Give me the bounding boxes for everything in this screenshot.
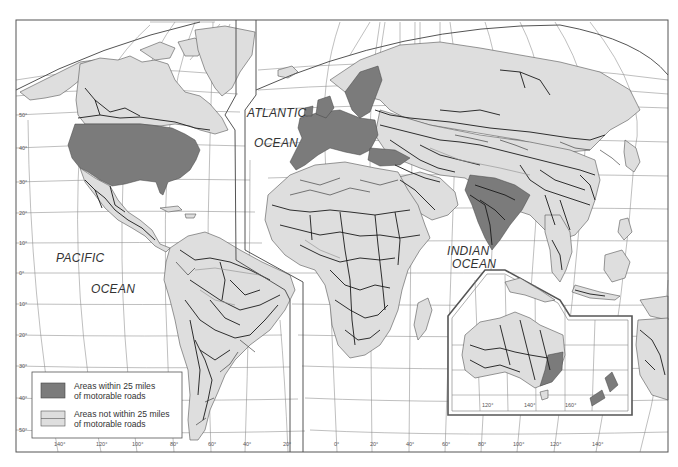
world-road-access-map: 120° 140° 160° ATLANTIC OCEAN PACIFIC OC… [0,0,678,467]
legend-label-not-within-line1: Areas not within 25 miles [74,409,170,419]
lat-tick: 20° [19,332,27,338]
atlantic-ocean-label-line1: ATLANTIC [246,106,307,120]
lon-tick: 0° [334,441,339,447]
indian-ocean-label-line1: INDIAN [447,244,490,258]
pacific-ocean-label-line2: OCEAN [91,282,135,296]
legend-label-within-line1: Areas within 25 miles [74,381,155,391]
lon-tick: 120° [550,441,561,447]
lat-tick: 10° [19,240,27,246]
greenland [195,26,255,96]
lon-tick: 140° [592,441,603,447]
lon-tick: 80° [170,441,178,447]
australia-inset: 120° 140° 160° [448,270,632,415]
lon-tick: 120° [96,441,107,447]
lat-tick: 30° [19,179,27,185]
legend-label-within-line2: of motorable roads [74,391,146,401]
lat-tick: 50° [19,112,27,118]
madagascar [414,298,432,340]
lat-tick: 10° [19,301,27,307]
pacific-ocean-label-line1: PACIFIC [56,251,105,265]
lon-tick: 80° [478,441,486,447]
lon-tick: 100° [132,441,143,447]
longitude-ticks: 140° 120° 100° 80° 60° 40° 20° 0° 20° 40… [54,441,603,447]
lon-tick: 40° [406,441,414,447]
inset-lon-160: 160° [565,402,576,408]
inset-lon-140: 140° [524,402,535,408]
lon-tick: 60° [208,441,216,447]
latitude-ticks: 50° 40° 30° 20° 10° 0° 10° 20° 30° 40° 5… [19,112,27,433]
legend-label-not-within-line2: of motorable roads [74,419,146,429]
japan [624,140,640,172]
lon-tick: 20° [283,441,291,447]
inset-lon-120: 120° [482,402,493,408]
indian-ocean-label-line2: OCEAN [452,257,496,271]
lon-tick: 40° [243,441,251,447]
lon-tick: 140° [54,441,65,447]
arctic-islands [140,38,205,60]
lat-tick: 50° [19,427,27,433]
lon-tick: 20° [370,441,378,447]
lat-tick: 40° [19,395,27,401]
indonesia-borneo [572,218,632,300]
new-guinea [640,296,668,320]
lat-tick: 30° [19,363,27,369]
lat-tick: 40° [19,145,27,151]
atlantic-ocean-label-line2: OCEAN [254,136,298,150]
lon-tick: 100° [513,441,524,447]
lon-tick: 60° [442,441,450,447]
lat-tick: 0° [19,270,24,276]
legend: Areas within 25 miles of motorable roads… [32,372,182,438]
legend-item-within-25-miles: Areas within 25 miles of motorable roads [41,381,155,401]
lat-tick: 20° [19,210,27,216]
legend-swatch-dark [41,383,65,398]
